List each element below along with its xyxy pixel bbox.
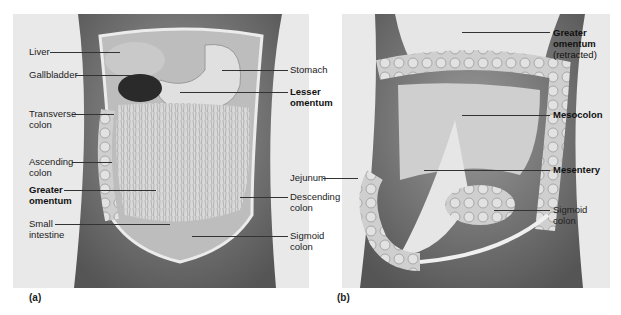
label-stomach: Stomach — [290, 64, 328, 75]
label-liver: Liver — [29, 46, 50, 57]
label-greater-omentum: Greateromentum — [29, 184, 72, 206]
label-jejunum: Jejunum — [290, 172, 326, 183]
leader-gallbladder — [76, 75, 131, 76]
leader-mesentery — [424, 170, 550, 171]
label-greater-omentum-retracted: Greateromentum(retracted) — [553, 27, 597, 60]
leader-greater-omentum-retracted — [462, 32, 550, 33]
leader-lesser-omentum — [180, 92, 288, 93]
label-ascending-colon: Ascendingcolon — [29, 156, 73, 178]
label-gallbladder: Gallbladder — [29, 69, 78, 80]
caption-b: (b) — [337, 292, 350, 303]
leader-liver — [50, 52, 120, 53]
leader-small-intestine — [55, 224, 170, 225]
leader-sigmoid-colon-a — [192, 236, 288, 237]
leader-descending-colon — [240, 197, 288, 198]
anatomy-illustration — [0, 0, 621, 315]
torso-a — [74, 14, 282, 288]
label-transverse-colon: Transversecolon — [29, 108, 76, 130]
label-mesentery: Mesentery — [553, 164, 600, 175]
label-descending-colon: Descendingcolon — [290, 191, 340, 213]
label-lesser-omentum: Lesseromentum — [290, 86, 333, 108]
leader-ascending-colon — [72, 162, 112, 163]
leader-greater-omentum — [64, 190, 156, 191]
leader-stomach — [222, 70, 288, 71]
leader-mesocolon — [462, 115, 550, 116]
caption-a: (a) — [29, 292, 41, 303]
label-sigmoid-colon-b: Sigmoidcolon — [553, 204, 587, 226]
leader-transverse-colon — [72, 114, 114, 115]
label-mesocolon: Mesocolon — [553, 109, 603, 120]
torso-b — [360, 14, 585, 288]
label-small-intestine: Smallintestine — [29, 218, 64, 240]
leader-jejunum — [323, 178, 358, 179]
label-sigmoid-colon-a: Sigmoidcolon — [290, 230, 324, 252]
leader-sigmoid-colon-b — [494, 210, 550, 211]
